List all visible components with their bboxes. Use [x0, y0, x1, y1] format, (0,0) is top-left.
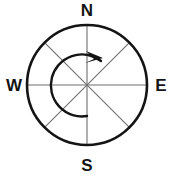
- label-west: W: [6, 76, 23, 95]
- compass-diagram: N W E S: [0, 0, 173, 181]
- label-south: S: [81, 156, 92, 175]
- label-north: N: [81, 1, 93, 20]
- compass-canvas: N W E S: [0, 0, 173, 181]
- label-east: E: [155, 76, 166, 95]
